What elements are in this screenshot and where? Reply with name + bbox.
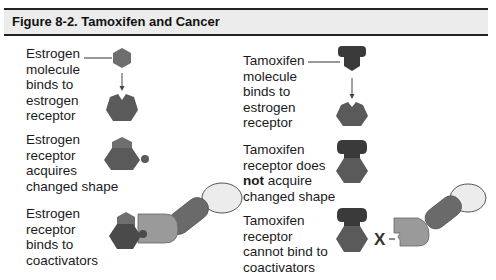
receptor-bound-icon: [109, 224, 141, 249]
tamoxifen-molecule-icon: [338, 46, 366, 71]
tamoxifen-bound-icon: [337, 208, 367, 228]
coactivator-1-icon: [138, 214, 178, 243]
estrogen-receptor-icon: [106, 94, 138, 121]
receptor-changed-icon: [104, 148, 140, 170]
tamoxifen-bound-icon: [337, 140, 367, 160]
receptor-knob-icon: [141, 155, 149, 163]
arrow-head-icon: [350, 94, 355, 99]
receptor-knob-icon: [139, 230, 147, 238]
coactivator-1-icon: [394, 218, 429, 246]
diagram-artwork: X: [0, 0, 496, 280]
estrogen-molecule-icon: [113, 48, 131, 68]
receptor-unchanged-icon: [336, 158, 368, 183]
receptor-unchanged-icon: [336, 226, 368, 252]
blocked-x-icon: X: [374, 230, 386, 249]
arrow-head-icon: [120, 86, 125, 91]
estrogen-receptor-icon: [336, 102, 368, 126]
